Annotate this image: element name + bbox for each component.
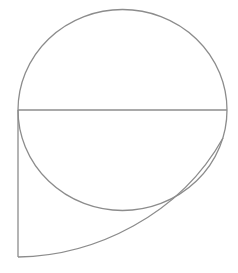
diagram-canvas — [0, 0, 238, 273]
geometry-figure — [0, 0, 238, 273]
outer-arc — [18, 138, 223, 257]
